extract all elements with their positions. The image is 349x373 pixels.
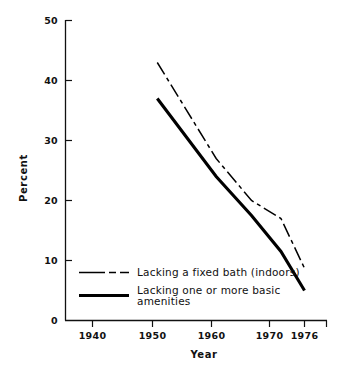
series-line-lacking-fixed-bath [157,63,304,269]
chart-figure: 50 40 30 20 10 0 1940 1950 1960 1970 197… [0,0,349,373]
x-axis-title: Year [189,349,217,360]
chart-legend: Lacking a fixed bath (indoors) Lacking o… [79,266,300,307]
legend-label-lacking-fixed-bath: Lacking a fixed bath (indoors) [137,266,300,278]
y-axis-title: Percent [18,154,29,202]
y-tick-label-20: 20 [44,195,58,206]
y-tick-label-30: 30 [44,135,58,146]
x-tick-label-1970: 1970 [256,330,284,341]
x-tick-label-1940: 1940 [79,330,107,341]
y-tick-labels: 50 40 30 20 10 0 [44,15,58,326]
x-tick-label-1950: 1950 [139,330,167,341]
x-tick-label-1960: 1960 [198,330,226,341]
y-tick-label-40: 40 [44,75,58,86]
x-tick-marks [93,321,327,328]
y-tick-marks [66,21,73,261]
x-tick-labels: 1940 1950 1960 1970 1976 [79,330,319,341]
y-tick-label-0: 0 [51,315,58,326]
x-tick-label-1976: 1976 [291,330,319,341]
chart-canvas: 50 40 30 20 10 0 1940 1950 1960 1970 197… [0,0,349,373]
legend-label-lacking-basic-amenities-line2: amenities [137,295,190,307]
y-tick-label-50: 50 [44,15,58,26]
y-tick-label-10: 10 [44,255,58,266]
series-line-lacking-basic-amenities [157,99,304,291]
